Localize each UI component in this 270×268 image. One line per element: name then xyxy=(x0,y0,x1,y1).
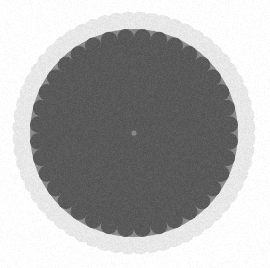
radial-dot-pattern-canvas xyxy=(0,0,270,268)
test-target-image xyxy=(0,0,270,268)
